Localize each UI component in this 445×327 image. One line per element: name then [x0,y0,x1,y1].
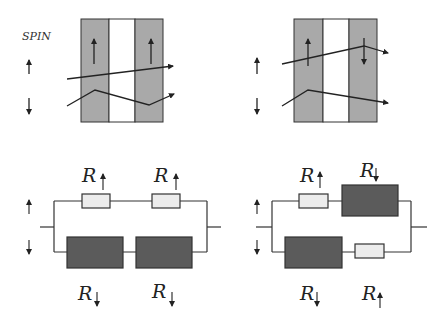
resistor-low-up [299,194,328,208]
parallel-spin-valve: SPIN [22,19,174,122]
resistance-label: R [153,164,168,186]
resistance-label: R [151,280,166,302]
resistor-high-down [285,237,342,268]
resistor-low-up [82,194,110,208]
spin-label: SPIN [22,30,51,43]
ferromagnet-layer-2 [349,19,377,122]
resistance-label: R [299,164,314,186]
resistor-high-down [136,237,192,268]
spacer-layer [323,19,349,122]
resistance-label: R [299,282,314,304]
antiparallel-resistor-network [256,168,427,308]
spin-valve-diagram: SPIN [0,0,445,327]
ferromagnet-layer-1 [81,19,109,122]
resistance-label: R [359,159,374,181]
ferromagnet-layer-1 [294,19,323,122]
resistor-high-down [342,185,398,216]
resistor-high-down [67,237,123,268]
resistance-label: R [81,164,96,186]
resistance-label: R [361,282,376,304]
parallel-resistor-network [29,174,221,306]
resistor-low-up [355,244,384,258]
resistor-low-up [152,194,180,208]
resistance-label: R [77,282,92,304]
antiparallel-spin-valve [257,19,388,122]
